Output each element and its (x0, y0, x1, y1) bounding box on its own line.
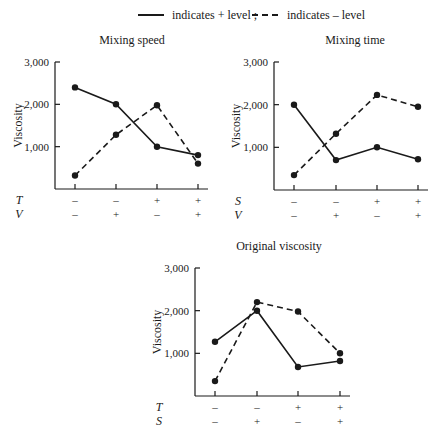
factor-name: V (15, 207, 24, 221)
y-axis-label: Viscosity (150, 310, 164, 355)
data-point-marker (291, 102, 297, 108)
legend: indicates + level ; indicates – level (138, 8, 366, 22)
factor-name: T (16, 193, 24, 207)
data-point-marker (72, 172, 78, 178)
factor-level: – (112, 194, 119, 206)
factor-level: + (295, 401, 301, 413)
y-tick-label: 2,000 (243, 99, 268, 111)
series-minus-level-line (215, 302, 340, 381)
factor-level: – (294, 415, 301, 427)
data-point-marker (254, 308, 260, 314)
legend-solid-label: indicates + level ; (172, 8, 257, 22)
data-point-marker (337, 350, 343, 356)
chart-title: Original viscosity (236, 239, 322, 253)
factor-level: – (71, 194, 78, 206)
factor-level: + (254, 415, 260, 427)
y-axis-label: Viscosity (229, 104, 243, 149)
factor-level: – (71, 208, 78, 220)
data-point-marker (415, 156, 421, 162)
factor-level: – (290, 209, 297, 221)
y-tick-label: 3,000 (164, 262, 189, 274)
factor-name: S (235, 194, 241, 208)
factor-level: + (113, 208, 119, 220)
data-point-marker (295, 308, 301, 314)
y-tick-label: 1,000 (164, 347, 189, 359)
factor-level: + (195, 208, 201, 220)
y-tick-label: 1,000 (243, 141, 268, 153)
factor-level: – (373, 209, 380, 221)
series-minus-level-line (294, 95, 418, 175)
series-minus-level-line (75, 105, 198, 175)
factor-level: – (153, 208, 160, 220)
series-plus-level-line (294, 105, 418, 160)
interaction-plots-figure: indicates + level ; indicates – level Mi… (0, 0, 437, 438)
factor-name: V (234, 208, 243, 222)
factor-level: + (415, 209, 421, 221)
y-tick-label: 1,000 (24, 141, 49, 153)
data-point-marker (113, 101, 119, 107)
y-axis-label: Viscosity (11, 103, 25, 148)
y-tick-label: 2,000 (24, 98, 49, 110)
legend-dashed-label: indicates – level (287, 8, 366, 22)
factor-level: + (337, 401, 343, 413)
factor-level: + (415, 195, 421, 207)
factor-name: S (156, 414, 162, 428)
data-point-marker (333, 131, 339, 137)
y-tick-label: 3,000 (24, 56, 49, 68)
data-point-marker (154, 144, 160, 150)
factor-level: + (333, 209, 339, 221)
factor-level: – (211, 415, 218, 427)
data-point-marker (291, 172, 297, 178)
factor-name: T (156, 400, 164, 414)
y-tick-label: 2,000 (164, 305, 189, 317)
chart-original-viscosity: Original viscosityViscosity1,0002,0003,0… (150, 239, 350, 428)
chart-title: Mixing speed (99, 33, 165, 47)
data-point-marker (337, 358, 343, 364)
data-point-marker (195, 160, 201, 166)
chart-title: Mixing time (325, 33, 385, 47)
data-point-marker (254, 299, 260, 305)
data-point-marker (374, 92, 380, 98)
factor-level: – (332, 195, 339, 207)
factor-level: + (195, 194, 201, 206)
data-point-marker (374, 144, 380, 150)
series-plus-level-line (215, 311, 340, 367)
factor-level: + (374, 195, 380, 207)
factor-level: + (154, 194, 160, 206)
chart-mixing-time: Mixing timeViscosity1,0002,0003,000S––++… (229, 33, 428, 222)
data-point-marker (415, 104, 421, 110)
factor-level: – (253, 401, 260, 413)
data-point-marker (212, 378, 218, 384)
data-point-marker (212, 339, 218, 345)
factor-level: – (290, 195, 297, 207)
series-plus-level-line (75, 87, 198, 155)
data-point-marker (72, 84, 78, 90)
data-point-marker (333, 157, 339, 163)
factor-level: – (211, 401, 218, 413)
data-point-marker (195, 152, 201, 158)
chart-mixing-speed: Mixing speedViscosity1,0002,0003,000T––+… (11, 33, 208, 221)
factor-level: + (337, 415, 343, 427)
data-point-marker (154, 102, 160, 108)
data-point-marker (113, 132, 119, 138)
data-point-marker (295, 364, 301, 370)
y-tick-label: 3,000 (243, 56, 268, 68)
